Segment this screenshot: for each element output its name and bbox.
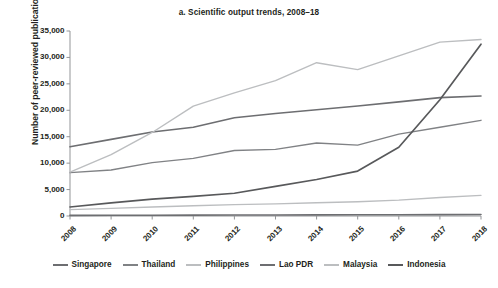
legend-label: Thailand: [142, 260, 176, 269]
chart-legend: SingaporeThailandPhilippinesLao PDRMalay…: [0, 260, 498, 269]
series-line-malaysia: [70, 39, 481, 172]
legend-line-swatch: [324, 264, 339, 266]
legend-line-swatch: [186, 264, 201, 266]
legend-line-swatch: [123, 264, 138, 266]
series-line-indonesia: [70, 44, 481, 207]
series-line-thailand: [70, 120, 481, 172]
legend-line-swatch: [260, 264, 275, 266]
legend-label: Malaysia: [343, 260, 377, 269]
legend-item-singapore[interactable]: Singapore: [53, 260, 112, 269]
legend-label: Indonesia: [407, 260, 445, 269]
legend-item-thailand[interactable]: Thailand: [123, 260, 176, 269]
legend-item-lao-pdr[interactable]: Lao PDR: [260, 260, 313, 269]
series-line-philippines: [70, 195, 481, 209]
chart-figure: a. Scientific output trends, 2008–18 Num…: [0, 0, 498, 288]
legend-line-swatch: [53, 264, 68, 266]
legend-label: Singapore: [72, 260, 112, 269]
legend-label: Philippines: [205, 260, 249, 269]
series-line-lao-pdr: [70, 215, 481, 216]
legend-item-malaysia[interactable]: Malaysia: [324, 260, 377, 269]
series-lines: [70, 39, 481, 215]
series-line-singapore: [70, 96, 481, 147]
legend-item-indonesia[interactable]: Indonesia: [388, 260, 445, 269]
legend-line-swatch: [388, 264, 403, 266]
legend-label: Lao PDR: [279, 260, 313, 269]
legend-item-philippines[interactable]: Philippines: [186, 260, 249, 269]
plot-area: [0, 0, 498, 288]
